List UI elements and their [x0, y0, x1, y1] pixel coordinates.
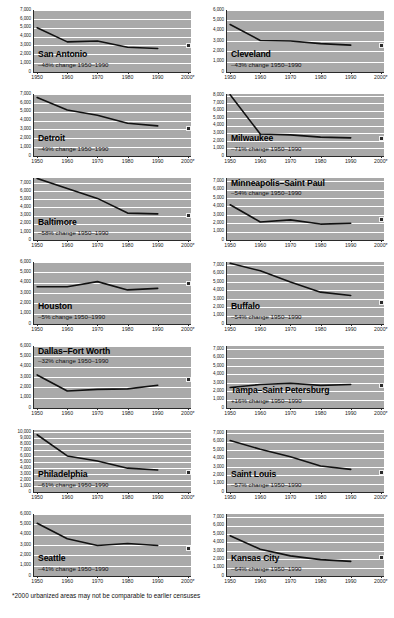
x-tick-label: 1980	[315, 326, 327, 332]
right-column: 01,0002,0003,0004,0005,0006,000195019601…	[197, 6, 386, 594]
y-tick-label: 7,000	[213, 431, 224, 436]
x-axis-labels: 195019601970198019902000*	[34, 158, 191, 167]
chart-annotation: –61% change 1950–1990	[38, 481, 109, 488]
data-point-marker-2000	[186, 213, 191, 218]
x-tick-label: 1990	[345, 578, 357, 584]
y-tick-label: 6,000	[20, 17, 31, 22]
x-tick-label: 1990	[345, 74, 357, 80]
chart-title: Milwaukee	[231, 134, 273, 143]
data-point-marker-2000	[379, 300, 384, 305]
x-tick-label: 1960	[255, 74, 267, 80]
x-tick-label: 1980	[122, 578, 134, 584]
x-axis-labels: 195019601970198019902000*	[34, 494, 191, 503]
x-axis-line	[33, 576, 191, 577]
chart-panel: 01,0002,0003,0004,0005,0006,000195019601…	[4, 342, 193, 426]
x-tick-label: 2000*	[181, 410, 195, 416]
y-axis-labels: 01,0002,0003,0004,0005,0006,000	[4, 262, 32, 324]
chart-title: Cleveland	[231, 50, 271, 59]
x-tick-label: 1970	[92, 74, 104, 80]
y-tick-label: 7,000	[213, 515, 224, 520]
chart-annotation: –64% change 1950–1990	[231, 565, 302, 572]
y-tick-label: 1,000	[20, 484, 31, 489]
y-tick-label: 10,000	[18, 430, 31, 435]
chart-title: Philadelphia	[38, 470, 87, 479]
x-tick-label: 2000*	[374, 74, 388, 80]
x-axis-line	[226, 324, 384, 325]
y-axis-line	[226, 94, 227, 156]
chart-annotation: –58% change 1950–1990	[38, 229, 109, 236]
x-tick-label: 1970	[285, 578, 297, 584]
chart-annotation: –41% change 1950–1990	[38, 565, 109, 572]
x-tick-label: 1950	[31, 578, 43, 584]
x-tick-label: 1950	[31, 326, 43, 332]
x-tick-label: 1980	[122, 494, 134, 500]
x-tick-label: 1960	[255, 158, 267, 164]
x-tick-label: 1980	[315, 74, 327, 80]
y-tick-label: 7,000	[213, 347, 224, 352]
x-axis-labels: 195019601970198019902000*	[227, 494, 384, 503]
y-tick-label: 9,000	[20, 436, 31, 441]
chart-panel: 01,0002,0003,0004,0005,0006,0007,0001950…	[197, 426, 386, 510]
data-point-marker-2000	[379, 217, 384, 222]
y-axis-labels: 01,0002,0003,0004,0005,0006,0007,0008,00…	[4, 430, 32, 492]
y-axis-line	[226, 262, 227, 324]
x-tick-label: 1950	[224, 578, 236, 584]
x-tick-label: 1960	[255, 242, 267, 248]
x-tick-label: 1990	[152, 326, 164, 332]
y-tick-label: 5,000	[20, 522, 31, 527]
y-tick-label: 3,000	[20, 543, 31, 548]
chart-title: Kansas City	[231, 554, 279, 563]
y-axis-line	[226, 514, 227, 576]
x-tick-label: 1970	[92, 326, 104, 332]
y-tick-label: 3,000	[213, 549, 224, 554]
chart-panel: 01,0002,0003,0004,0005,0006,0007,0008,00…	[4, 426, 193, 510]
y-tick-label: 4,000	[20, 118, 31, 123]
y-tick-label: 6,000	[20, 189, 31, 194]
y-tick-label: 4,000	[213, 456, 224, 461]
y-tick-label: 6,000	[213, 523, 224, 528]
chart-panel: 01,0002,0003,0004,0005,0006,000195019601…	[4, 258, 193, 342]
footnote: *2000 urbanized areas may not be compara…	[12, 592, 200, 599]
chart-annotation: –57% change 1950–1990	[231, 481, 302, 488]
x-tick-label: 1960	[255, 410, 267, 416]
x-tick-label: 1970	[92, 494, 104, 500]
y-tick-label: 4,000	[213, 288, 224, 293]
x-tick-label: 1990	[345, 242, 357, 248]
x-tick-label: 1950	[31, 242, 43, 248]
y-tick-label: 2,000	[20, 301, 31, 306]
y-tick-label: 8,000	[213, 93, 224, 98]
chart-title: Houston	[38, 302, 72, 311]
chart-panel: 01,0002,0003,0004,0005,0006,0007,0008,00…	[197, 90, 386, 174]
y-tick-label: 1,000	[213, 146, 224, 151]
y-tick-label: 4,000	[20, 466, 31, 471]
y-tick-label: 5,000	[213, 364, 224, 369]
y-axis-line	[33, 346, 34, 408]
y-tick-label: 1,000	[213, 397, 224, 402]
x-axis-line	[33, 72, 191, 73]
x-axis-line	[33, 408, 191, 409]
chart-annotation: –43% change 1950–1990	[231, 61, 302, 68]
x-tick-label: 1970	[92, 578, 104, 584]
y-axis-labels: 01,0002,0003,0004,0005,0006,000	[4, 346, 32, 408]
x-tick-label: 1960	[62, 578, 74, 584]
x-tick-label: 1950	[224, 494, 236, 500]
x-tick-label: 1950	[224, 74, 236, 80]
y-tick-label: 7,000	[20, 8, 31, 13]
y-tick-label: 3,000	[213, 381, 224, 386]
y-tick-label: 2,000	[213, 557, 224, 562]
chart-title: Baltimore	[38, 218, 77, 227]
x-axis-labels: 195019601970198019902000*	[34, 326, 191, 335]
y-tick-label: 6,000	[213, 108, 224, 113]
x-tick-label: 1980	[122, 242, 134, 248]
x-axis-line	[226, 240, 384, 241]
chart-annotation: –48% change 1950–1990	[38, 61, 109, 68]
x-axis-line	[33, 324, 191, 325]
y-tick-label: 3,000	[20, 291, 31, 296]
x-tick-label: 2000*	[181, 326, 195, 332]
x-tick-label: 1970	[285, 74, 297, 80]
y-tick-label: 7,000	[213, 263, 224, 268]
y-axis-labels: 01,0002,0003,0004,0005,0006,0007,000	[4, 10, 32, 72]
x-tick-label: 1990	[345, 494, 357, 500]
y-tick-label: 5,000	[20, 270, 31, 275]
y-tick-label: 1,000	[20, 145, 31, 150]
